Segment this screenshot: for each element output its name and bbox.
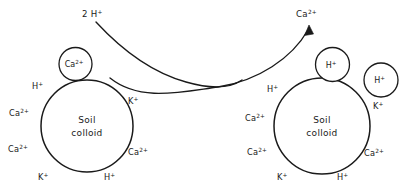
incoming-hydrogen-flow-path [96,22,242,87]
right-colloid-circle [274,78,370,174]
left-colloid-circle [41,80,133,172]
left-colloid-ion-upper-left: H+ [32,81,43,91]
left-colloid-ion-lower-left: Ca2+ [8,144,28,154]
left-colloid-name-line1: Soil [78,115,95,125]
right-colloid-ion-lower-right: Ca2+ [364,148,384,158]
left-colloid-ion-left: Ca2+ [9,108,29,118]
right-colloid-ion-bottom-right: H+ [337,172,348,182]
left-colloid-ion-bottom-right: H+ [104,172,115,182]
left-colloid-ion-bottom-left: K+ [38,172,49,182]
incoming-flow-label: 2 H+ [82,9,103,19]
left-colloid-ion-upper-right: K+ [128,96,139,106]
right-colloid-name-line2: colloid [306,128,337,138]
calcium-arrowhead-icon [305,25,314,36]
left-colloid-ion-lower-right: Ca2+ [128,147,148,157]
right-colloid-ion-lower-left: Ca2+ [247,147,267,157]
right-colloid-ion-upper-left: H+ [267,84,278,94]
right-colloid-ion-right: K+ [373,101,384,111]
right-colloid-ion-left: Ca2+ [245,113,265,123]
left-colloid-name-line2: colloid [71,128,102,138]
left-colloid-group: Ca2+ Soil colloid H+ Ca2+ Ca2+ K+ H+ Ca2… [8,48,148,183]
right-colloid-group: H+ H+ Soil colloid H+ Ca2+ Ca2+ K+ H+ [245,48,398,183]
right-colloid-ion-bottom-left: K+ [277,172,288,182]
outgoing-flow-label: Ca2+ [296,9,317,19]
diagram-canvas: 2 H+ Ca2+ Ca2+ Soil colloid H+ Ca2+ Ca2+ [0,0,414,190]
right-colloid-name-line1: Soil [313,115,330,125]
soil-colloid-diagram: 2 H+ Ca2+ Ca2+ Soil colloid H+ Ca2+ Ca2+ [0,0,414,190]
